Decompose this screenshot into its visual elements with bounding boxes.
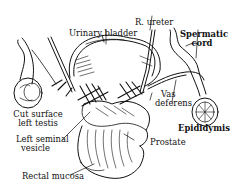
label-prostate: Prostate: [150, 138, 186, 147]
leader-prostate: [124, 134, 134, 140]
label-epididymis: Epididymis: [178, 124, 230, 133]
anatomy-diagram: Urinary bladder R. ureter Spermatic cord…: [0, 0, 238, 195]
label-left-seminal-vesicle: Left seminal vesicle: [16, 135, 69, 152]
label-vas-deferens: Vas deferens: [155, 90, 192, 107]
label-r-ureter: R. ureter: [135, 18, 173, 27]
left-testis-shape: [14, 78, 42, 108]
leader-vas-a: [150, 93, 152, 100]
label-spermatic-cord: Spermatic cord: [180, 30, 224, 47]
label-urinary-bladder: Urinary bladder: [69, 29, 137, 38]
label-rectal-mucosa: Rectal mucosa: [22, 172, 84, 181]
label-cut-surface-left-testis: Cut surface left testis: [8, 110, 68, 127]
